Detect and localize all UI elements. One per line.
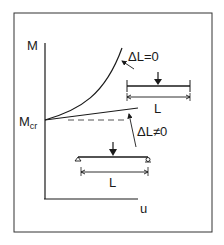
pointer-free-length xyxy=(129,114,136,147)
upper-beam-span-label: L xyxy=(154,102,161,115)
x-axis-label: u xyxy=(140,202,147,215)
mcr-main: M xyxy=(19,114,30,129)
y-axis-label: M xyxy=(27,39,38,52)
label-fixed-length: ΔL=0 xyxy=(128,50,159,63)
mcr-label: Mcr xyxy=(19,115,37,131)
curve-free-length xyxy=(45,108,138,120)
mcr-subscript: cr xyxy=(30,121,38,131)
label-free-length: ΔL≠0 xyxy=(137,125,167,138)
lower-beam-span-label: L xyxy=(109,176,116,189)
lower-beam xyxy=(75,142,151,176)
upper-beam xyxy=(127,72,190,101)
curve-fixed-length xyxy=(45,48,122,120)
